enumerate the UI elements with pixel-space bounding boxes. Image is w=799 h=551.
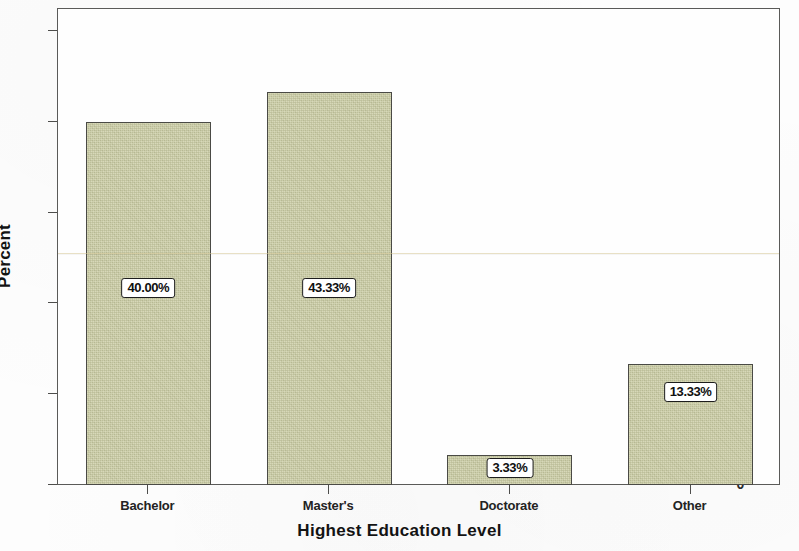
x-axis-tick-label-bachelor: Bachelor (120, 498, 174, 513)
x-axis-tick-mark (147, 485, 148, 494)
data-label-doctorate: 3.33% (486, 458, 533, 478)
y-axis-tick-mark (48, 393, 57, 394)
bar-chart-figure: Percent Highest Education Level 01020304… (0, 0, 799, 551)
x-axis-tick-mark (328, 485, 329, 494)
x-axis-tick-label-other: Other (673, 498, 707, 513)
x-axis-tick-mark (509, 485, 510, 494)
x-axis-tick-mark (690, 485, 691, 494)
x-axis-tick-label-master-s: Master's (303, 498, 354, 513)
y-axis-tick-mark (48, 30, 57, 31)
plot-area: 40.00%43.33%3.33%13.33% (57, 8, 780, 485)
x-axis-title: Highest Education Level (0, 521, 799, 541)
bar-bachelor[interactable] (86, 122, 211, 485)
data-label-other: 13.33% (664, 382, 718, 402)
y-axis-tick-mark (48, 212, 57, 213)
data-label-bachelor: 40.00% (122, 278, 176, 298)
x-axis-tick-label-doctorate: Doctorate (479, 498, 538, 513)
data-label-master-s: 43.33% (302, 278, 356, 298)
y-axis-title: Percent (0, 224, 15, 288)
y-axis-tick-mark (48, 302, 57, 303)
y-axis-tick-mark (48, 484, 57, 485)
y-axis-tick-mark (48, 121, 57, 122)
